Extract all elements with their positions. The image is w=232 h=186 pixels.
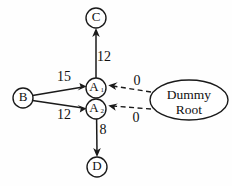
node-d-label: D bbox=[92, 158, 101, 173]
node-a1-label: A bbox=[89, 79, 99, 94]
node-c[interactable]: C bbox=[86, 8, 106, 28]
edge-label-a2-to-d: 8 bbox=[100, 122, 107, 137]
edge-b-to-a1-line bbox=[33, 87, 84, 96]
edge-dummyroot-to-a1 bbox=[108, 82, 151, 92]
node-a1[interactable]: A 1 bbox=[86, 78, 106, 98]
edge-b-to-a1-arrowhead bbox=[78, 83, 87, 91]
edge-label-dummyroot-to-a1: 0 bbox=[134, 73, 141, 88]
node-dummy-root[interactable]: Dummy Root bbox=[150, 80, 228, 120]
node-dummy-root-label-line2: Root bbox=[176, 102, 203, 117]
node-c-label: C bbox=[92, 9, 101, 24]
edge-dummyroot-to-a2-arrowhead bbox=[108, 103, 118, 110]
graph-svg: 12 15 12 8 0 0 C A 1 A 2 B bbox=[0, 0, 232, 186]
graph-diagram-canvas: 12 15 12 8 0 0 C A 1 A 2 B bbox=[0, 0, 232, 186]
node-a2[interactable]: A 2 bbox=[86, 99, 106, 119]
edge-dummyroot-to-a2 bbox=[108, 103, 151, 110]
edge-dummyroot-to-a2-line bbox=[113, 106, 151, 109]
node-b[interactable]: B bbox=[13, 88, 33, 108]
edge-b-to-a2-arrowhead bbox=[78, 105, 87, 112]
node-b-label: B bbox=[19, 89, 28, 104]
edge-label-b-to-a1: 15 bbox=[57, 69, 71, 84]
node-a2-subscript: 2 bbox=[101, 107, 105, 115]
edge-dummyroot-to-a1-line bbox=[113, 86, 151, 92]
edge-label-b-to-a2: 12 bbox=[57, 107, 71, 122]
node-a2-label: A bbox=[89, 100, 99, 115]
edge-label-dummyroot-to-a2: 0 bbox=[133, 110, 140, 125]
edge-label-a1-to-c: 12 bbox=[97, 49, 111, 64]
node-a1-subscript: 1 bbox=[101, 86, 105, 94]
node-d[interactable]: D bbox=[87, 157, 107, 177]
edge-b-to-a1 bbox=[33, 83, 87, 96]
node-dummy-root-label-line1: Dummy bbox=[167, 87, 212, 102]
